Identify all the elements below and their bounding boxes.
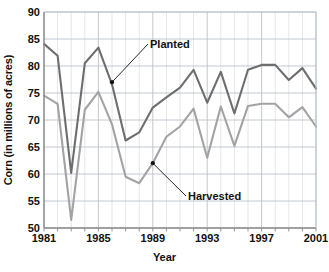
corn-acreage-line-chart: Corn (in millions of acres) 908580757065…: [0, 0, 329, 272]
x-axis-title-text: Year: [153, 251, 176, 263]
annotation-point-planted: [110, 80, 114, 84]
annotation-leader-planted: [112, 44, 148, 82]
x-axis-title: Year: [0, 251, 329, 263]
annotation-leader-harvested: [153, 163, 186, 196]
annotation-label-planted: Planted: [150, 38, 190, 50]
annotation-point-harvested: [151, 161, 155, 165]
annotation-label-harvested: Harvested: [188, 190, 241, 202]
